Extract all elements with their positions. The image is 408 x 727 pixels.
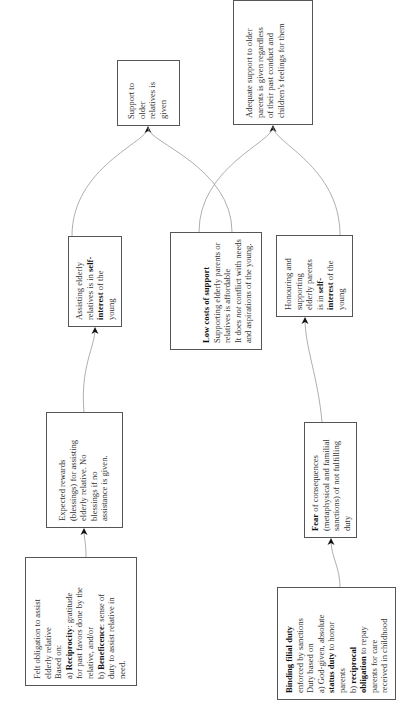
node-adequate-support: Adequate support to older parents is giv… xyxy=(233,0,313,125)
text-fragment: : gratitude xyxy=(64,593,74,628)
edge-assisting-to-support xyxy=(72,128,148,236)
node-assisting-self-interest: Assisting elderly relatives is in self- … xyxy=(68,236,122,327)
text-line: (metaphysical and familial xyxy=(321,429,332,531)
text-line: for past favors done by the xyxy=(74,564,85,679)
text-line: a) God-given, absolute xyxy=(316,594,327,693)
text-fragment: b) xyxy=(348,684,358,693)
keyword-self-interest: self- xyxy=(315,278,325,293)
text-fragment: a) xyxy=(64,670,74,679)
edge-felt-to-expected xyxy=(84,530,86,557)
text-line: Honouring and xyxy=(283,242,294,310)
text-line: and aspirations of the young. xyxy=(243,239,254,343)
text-fragment: b) xyxy=(96,670,106,679)
node-felt-obligation: Felt obligation to assist elderly relati… xyxy=(25,557,137,686)
text-line: young xyxy=(336,242,347,310)
text-line: children’s feelings for them xyxy=(276,7,287,118)
node-honouring-self-interest: Honouring and supporting elderly parents… xyxy=(276,235,353,317)
text-line: enforced by sanctions xyxy=(295,594,306,693)
text-line: obligation to repay xyxy=(358,594,369,693)
text-line: relative, and/or xyxy=(85,564,96,679)
text-line: parents for care xyxy=(369,594,380,693)
text-line: parents is given regardless xyxy=(255,7,266,118)
keyword-obligation: obligation xyxy=(358,656,368,693)
text-line: Fear of consequences xyxy=(310,429,321,531)
text-fragment: It does xyxy=(233,318,243,343)
text-line: is in self- xyxy=(315,242,326,310)
text-line: parents xyxy=(337,594,348,693)
edge-honouring-to-adequate xyxy=(273,127,340,235)
keyword-beneficence: Beneficence xyxy=(96,626,106,669)
text-line: elderly relative. No xyxy=(78,419,89,521)
text-line: Based on: xyxy=(53,564,64,679)
text-line: Support to xyxy=(126,67,137,119)
text-line: interest of the xyxy=(325,242,336,310)
text-line: Low costs of support xyxy=(201,239,212,343)
node-fear-consequences: Fear of consequences (metaphysical and f… xyxy=(304,422,357,538)
text-line: given xyxy=(158,67,169,119)
text-line: relatives is xyxy=(147,67,158,119)
text-fragment: : sense of xyxy=(96,594,106,626)
text-line: Expected rewards xyxy=(57,419,68,521)
text-line: of their past conduct and xyxy=(265,7,276,118)
text-line: Adequate support to older xyxy=(244,7,255,118)
keyword-reciprocal: reciprocal xyxy=(348,647,358,684)
text-line: duty to assist relative in xyxy=(106,564,117,679)
text-fragment: conflict with needs xyxy=(233,239,243,307)
text-fragment: relatives is in xyxy=(85,272,95,320)
text-line: received in childhood xyxy=(379,594,390,693)
edge-expected-to-assisting xyxy=(83,329,95,412)
keyword-status-duty: status duty xyxy=(326,653,336,693)
edge-lowcosts-to-support xyxy=(148,128,232,232)
text-line: assistance is given. xyxy=(99,419,110,521)
node-binding-filial-duty: Binding filial duty enforced by sanction… xyxy=(277,587,396,700)
text-fragment: of the xyxy=(325,261,335,283)
text-line: supporting xyxy=(294,242,305,310)
edge-binding-to-fear xyxy=(331,540,340,587)
text-fragment: to honor xyxy=(326,622,336,653)
emphasis-not: not xyxy=(233,307,243,318)
text-line: Assisting elderly xyxy=(74,243,85,320)
text-line: Duty based on xyxy=(305,594,316,693)
text-line: interest of the xyxy=(95,243,106,320)
text-line: young xyxy=(106,243,117,320)
node-expected-rewards: Expected rewards (blessings) for assisti… xyxy=(46,412,123,528)
text-line: older xyxy=(137,67,148,119)
node-support-given: Support to older relatives is given xyxy=(117,60,180,126)
text-line: b) reciprocal xyxy=(348,594,359,693)
text-line: b) Beneficence: sense of xyxy=(96,564,107,679)
text-fragment: is in xyxy=(315,293,325,310)
text-line: a) Reciprocity: gratitude xyxy=(64,564,75,679)
node-title: Fear xyxy=(310,514,320,531)
node-low-costs: Low costs of support Supporting elderly … xyxy=(170,232,262,350)
text-line: relatives is in self- xyxy=(85,243,96,320)
keyword-reciprocity: Reciprocity xyxy=(64,628,74,670)
text-fragment: to repay xyxy=(358,626,368,656)
text-line: sanctions) of not fulfilling xyxy=(331,429,342,531)
keyword-self-interest: interest xyxy=(325,282,335,310)
text-fragment: of the xyxy=(95,271,105,293)
text-line: elderly parents xyxy=(304,242,315,310)
text-line: Supporting elderly parents or xyxy=(212,239,223,343)
text-line: blessings if no xyxy=(89,419,100,521)
text-line: (blessings) for assisting xyxy=(68,419,79,521)
text-line: status duty to honor xyxy=(326,594,337,693)
text-line: duty xyxy=(342,429,353,531)
node-title: Low costs of support xyxy=(201,267,211,343)
node-title: Binding filial duty xyxy=(284,626,294,693)
text-line: elderly relative xyxy=(43,564,54,679)
text-line: need. xyxy=(117,564,128,679)
diagram-canvas: Felt obligation to assist elderly relati… xyxy=(0,0,408,727)
text-line: Felt obligation to assist xyxy=(32,564,43,679)
text-fragment: of consequences xyxy=(310,455,320,514)
edge-fear-to-honouring xyxy=(305,319,322,422)
text-line: Binding filial duty xyxy=(284,594,295,693)
text-line: It does not conflict with needs xyxy=(233,239,244,343)
text-line: relatives is affordable xyxy=(222,239,233,343)
keyword-self-interest: self- xyxy=(85,257,95,272)
keyword-self-interest: interest xyxy=(95,292,105,320)
